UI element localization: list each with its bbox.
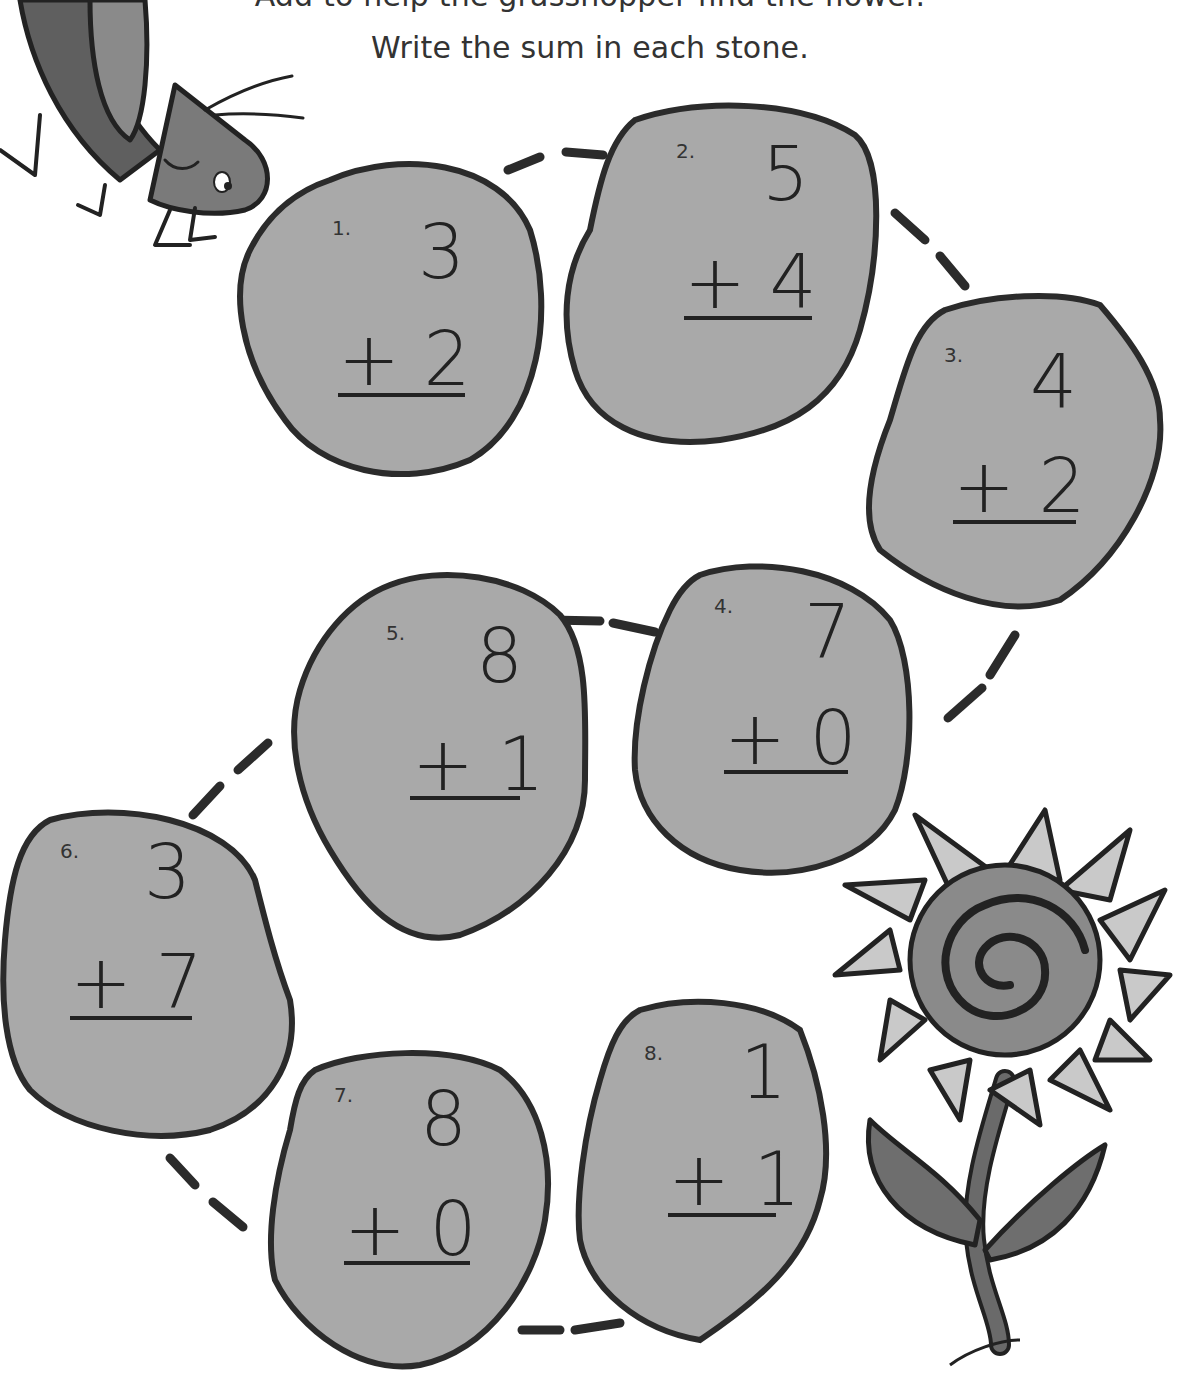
- problem-label: 8.: [644, 1041, 663, 1065]
- addend-top: 7: [804, 589, 851, 675]
- addend-bottom: + 0: [344, 1186, 477, 1272]
- stone-5: 5. 8 + 1: [294, 575, 585, 938]
- problem-label: 2.: [676, 139, 695, 163]
- problem-label: 4.: [714, 594, 733, 618]
- addend-top: 5: [762, 131, 809, 217]
- addend-top: 3: [144, 829, 191, 915]
- grasshopper-icon: [0, 0, 303, 245]
- problem-label: 6.: [60, 839, 79, 863]
- sunflower-icon: [835, 810, 1170, 1365]
- stone-6: 6. 3 + 7: [3, 813, 292, 1136]
- problem-label: 1.: [332, 216, 351, 240]
- addend-bottom: + 7: [70, 939, 203, 1025]
- stone-3: 3. 4 + 2: [869, 296, 1160, 606]
- problem-label: 3.: [944, 343, 963, 367]
- addend-top: 1: [740, 1029, 787, 1115]
- stone-7: 7. 8 + 0: [271, 1053, 548, 1366]
- addend-bottom: + 1: [412, 721, 545, 807]
- problem-label: 5.: [386, 621, 405, 645]
- stone-8: 8. 1 + 1: [579, 1002, 826, 1340]
- addend-top: 4: [1030, 339, 1077, 425]
- addend-bottom: + 2: [953, 443, 1086, 529]
- stone-2: 2. 5 + 4: [567, 106, 877, 442]
- addend-bottom: + 4: [684, 239, 817, 325]
- problem-label: 7.: [334, 1083, 353, 1107]
- stone-1: 1. 3 + 2: [240, 164, 541, 474]
- addend-bottom: + 1: [668, 1136, 801, 1222]
- addend-top: 8: [476, 613, 523, 699]
- stone-4: 4. 7 + 0: [635, 566, 910, 872]
- addend-bottom: + 2: [338, 316, 471, 402]
- addend-top: 8: [420, 1076, 467, 1162]
- addend-bottom: + 0: [724, 695, 857, 781]
- addend-top: 3: [418, 209, 465, 295]
